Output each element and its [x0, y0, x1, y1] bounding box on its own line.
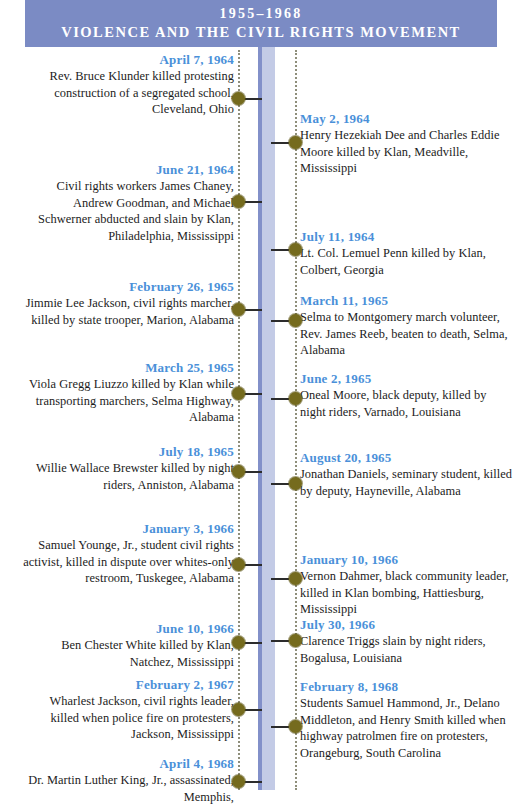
connector-stem [271, 320, 289, 322]
dotted-rail-right [295, 50, 297, 790]
entry-description: Rev. Bruce Klunder killed protesting con… [18, 68, 234, 118]
connector-stem [271, 249, 289, 251]
entry-date: July 18, 1965 [18, 443, 234, 460]
connector-stem [271, 142, 289, 144]
connector-stem [242, 709, 262, 711]
timeline-entry-left[interactable]: February 26, 1965 Jimmie Lee Jackson, ci… [18, 278, 234, 328]
entry-date: April 4, 1968 [18, 755, 234, 772]
entry-description: Lt. Col. Lemuel Penn killed by Klan, Col… [300, 245, 515, 278]
timeline-node-dot [289, 634, 302, 647]
timeline-node-right[interactable] [271, 572, 302, 586]
entry-date: February 26, 1965 [18, 278, 234, 295]
connector-stem [242, 781, 262, 783]
timeline-node-dot [289, 243, 302, 256]
timeline-entry-right[interactable]: May 2, 1964 Henry Hezekiah Dee and Charl… [300, 110, 515, 177]
timeline-node-dot [232, 387, 245, 400]
entry-description: Selma to Montgomery march volunteer, Rev… [300, 309, 515, 359]
timeline-node-dot [232, 636, 245, 649]
entry-date: July 30, 1966 [300, 616, 515, 633]
timeline-node-dot [289, 572, 302, 585]
entry-date: January 3, 1966 [18, 520, 234, 537]
entry-date: February 8, 1968 [300, 678, 515, 695]
header-years: 1955–1968 [220, 5, 303, 23]
entry-date: June 2, 1965 [300, 370, 515, 387]
connector-stem [242, 309, 262, 311]
timeline-entry-right[interactable]: January 10, 1966 Vernon Dahmer, black co… [300, 551, 515, 618]
connector-stem [242, 201, 262, 203]
entry-description: Samuel Younge, Jr., student civil rights… [18, 537, 234, 587]
connector-stem [271, 398, 289, 400]
entry-date: July 11, 1964 [300, 228, 515, 245]
connector-stem [271, 578, 289, 580]
timeline-node-dot [289, 392, 302, 405]
entry-date: March 25, 1965 [18, 359, 234, 376]
connector-stem [271, 726, 289, 728]
connector-stem [242, 98, 262, 100]
timeline-node-right[interactable] [271, 477, 302, 491]
timeline-node-dot [232, 558, 245, 571]
timeline-node-left[interactable] [232, 195, 262, 209]
timeline-entry-left[interactable]: April 7, 1964 Rev. Bruce Klunder killed … [18, 51, 234, 118]
timeline-node-dot [289, 136, 302, 149]
entry-description: Wharlest Jackson, civil rights leader, k… [18, 693, 234, 743]
timeline-entry-left[interactable]: January 3, 1966 Samuel Younge, Jr., stud… [18, 520, 234, 587]
timeline-node-left[interactable] [232, 775, 262, 789]
timeline-entry-right[interactable]: August 20, 1965 Jonathan Daniels, semina… [300, 449, 515, 499]
timeline-node-left[interactable] [232, 92, 262, 106]
timeline-entry-left[interactable]: June 10, 1966 Ben Chester White killed b… [18, 620, 234, 670]
timeline-node-left[interactable] [232, 636, 262, 650]
timeline-node-left[interactable] [232, 558, 262, 572]
dotted-rail-left [238, 50, 240, 790]
entry-date: June 21, 1964 [18, 161, 234, 178]
timeline-node-dot [289, 720, 302, 733]
timeline-node-right[interactable] [271, 243, 302, 257]
timeline-entry-left[interactable]: April 4, 1968 Dr. Martin Luther King, Jr… [18, 755, 234, 805]
entry-description: Dr. Martin Luther King, Jr., assassinate… [18, 772, 234, 805]
connector-stem [271, 640, 289, 642]
entry-description: Ben Chester White killed by Klan, Natche… [18, 637, 234, 670]
timeline-entry-left[interactable]: July 18, 1965 Willie Wallace Brewster ki… [18, 443, 234, 493]
timeline-node-dot [232, 465, 245, 478]
entry-description: Vernon Dahmer, black community leader, k… [300, 568, 515, 618]
timeline-entry-right[interactable]: February 8, 1968 Students Samuel Hammond… [300, 678, 515, 761]
timeline-node-left[interactable] [232, 703, 262, 717]
timeline-entry-right[interactable]: July 11, 1964 Lt. Col. Lemuel Penn kille… [300, 228, 515, 278]
entry-description: Oneal Moore, black deputy, killed by nig… [300, 387, 515, 420]
entry-description: Henry Hezekiah Dee and Charles Eddie Moo… [300, 127, 515, 177]
timeline-entry-left[interactable]: February 2, 1967 Wharlest Jackson, civil… [18, 676, 234, 743]
timeline-spine [258, 47, 275, 790]
timeline-node-dot [232, 195, 245, 208]
timeline-node-dot [232, 703, 245, 716]
timeline-node-dot [232, 303, 245, 316]
entry-date: May 2, 1964 [300, 110, 515, 127]
timeline-node-left[interactable] [232, 303, 262, 317]
connector-stem [242, 642, 262, 644]
timeline-node-right[interactable] [271, 392, 302, 406]
timeline-entry-right[interactable]: March 11, 1965 Selma to Montgomery march… [300, 292, 515, 359]
timeline-node-right[interactable] [271, 136, 302, 150]
timeline-entry-right[interactable]: June 2, 1965 Oneal Moore, black deputy, … [300, 370, 515, 420]
timeline-node-right[interactable] [271, 720, 302, 734]
entry-date: March 11, 1965 [300, 292, 515, 309]
timeline-node-right[interactable] [271, 314, 302, 328]
entry-date: April 7, 1964 [18, 51, 234, 68]
timeline-node-dot [289, 477, 302, 490]
entry-description: Clarence Triggs slain by night riders, B… [300, 633, 515, 666]
header-banner: 1955–1968 VIOLENCE AND THE CIVIL RIGHTS … [25, 0, 497, 47]
connector-stem [271, 483, 289, 485]
timeline-node-left[interactable] [232, 387, 262, 401]
entry-description: Civil rights workers James Chaney, Andre… [18, 178, 234, 244]
entry-date: June 10, 1966 [18, 620, 234, 637]
entry-date: January 10, 1966 [300, 551, 515, 568]
timeline-node-dot [289, 314, 302, 327]
timeline-node-left[interactable] [232, 465, 262, 479]
timeline-entry-right[interactable]: July 30, 1966 Clarence Triggs slain by n… [300, 616, 515, 666]
entry-date: August 20, 1965 [300, 449, 515, 466]
timeline-entry-left[interactable]: March 25, 1965 Viola Gregg Liuzzo killed… [18, 359, 234, 426]
entry-description: Willie Wallace Brewster killed by night … [18, 460, 234, 493]
header-subtitle: VIOLENCE AND THE CIVIL RIGHTS MOVEMENT [61, 23, 461, 42]
entry-description: Jonathan Daniels, seminary student, kill… [300, 466, 515, 499]
timeline-node-right[interactable] [271, 634, 302, 648]
timeline-entry-left[interactable]: June 21, 1964 Civil rights workers James… [18, 161, 234, 244]
entry-date: February 2, 1967 [18, 676, 234, 693]
